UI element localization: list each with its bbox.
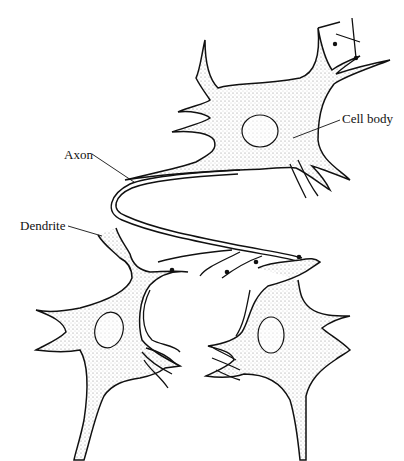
top-nucleus — [242, 115, 278, 147]
cell-body-label: Cell body — [342, 112, 393, 125]
axon-leader — [92, 154, 134, 182]
axon — [111, 170, 302, 278]
bottom-right-nucleus — [258, 317, 284, 353]
dendrite-leader — [68, 226, 102, 236]
bottom-left-neuron — [36, 228, 188, 460]
axon-label: Axon — [64, 148, 93, 161]
bottom-right-neuron — [206, 259, 350, 460]
dendrite-label: Dendrite — [20, 219, 65, 232]
top-neuron — [125, 18, 390, 198]
top-cell-body — [125, 28, 390, 190]
